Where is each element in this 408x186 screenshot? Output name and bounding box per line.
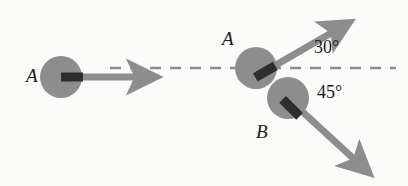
ball-b-outgoing-arrow [293,103,355,160]
angle-label-upper: 30° [314,38,339,56]
incoming-velocity-stub [61,73,83,82]
label-deflected-ball-a: A [222,29,234,48]
label-deflected-ball-b: B [256,122,268,141]
label-incoming-ball-a: A [26,66,38,85]
diagram-canvas [0,0,408,186]
collision-diagram: A A B 30° 45° [0,0,408,186]
angle-label-lower: 45° [317,83,342,101]
